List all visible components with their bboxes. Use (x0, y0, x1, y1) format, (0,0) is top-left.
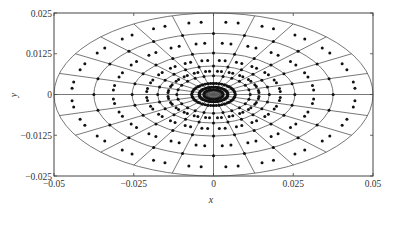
mesh-node (186, 112, 189, 115)
mesh-node (272, 27, 275, 30)
mesh-node (118, 111, 121, 114)
mesh-node (206, 104, 209, 107)
mesh-node (156, 93, 159, 96)
x-axis-label: x (208, 194, 214, 205)
mesh-node (291, 104, 294, 107)
mesh-node (247, 98, 250, 101)
mesh-node (161, 115, 164, 118)
mesh-node (249, 106, 252, 109)
mesh-node (96, 51, 99, 54)
mesh-node (174, 121, 177, 124)
mesh-node (321, 140, 324, 143)
mesh-node (218, 104, 221, 107)
mesh-node (215, 104, 218, 107)
mesh-node (206, 82, 209, 85)
mesh-node (180, 84, 183, 87)
mesh-node (272, 146, 275, 149)
mesh-node (289, 60, 292, 63)
mesh-node (186, 74, 189, 77)
mesh-node (223, 84, 226, 87)
mesh-node (226, 94, 229, 97)
mesh-node (250, 121, 253, 124)
mesh-node (200, 127, 203, 130)
mesh-node (282, 114, 285, 117)
mesh-node (275, 81, 278, 84)
mesh-node (121, 115, 124, 118)
mesh-node (167, 91, 170, 94)
mesh-node (255, 119, 258, 122)
mesh-node (345, 68, 348, 71)
mesh-node (204, 83, 207, 86)
mesh-node (154, 64, 157, 67)
mesh-node (273, 79, 276, 82)
mesh-node (186, 106, 189, 109)
mesh-node (238, 80, 241, 83)
mesh-node (224, 59, 227, 62)
mesh-node (209, 82, 212, 85)
mesh-node (303, 71, 306, 74)
mesh-node (167, 97, 170, 100)
mesh-node (174, 65, 177, 68)
mesh-node (131, 93, 134, 96)
mesh-node (92, 93, 95, 96)
mesh-node (135, 126, 138, 129)
mesh-node (152, 146, 155, 149)
mesh-node (83, 124, 86, 127)
mesh-node (294, 64, 297, 67)
mesh-node (183, 75, 186, 78)
mesh-node (270, 51, 273, 54)
radial-line (214, 95, 368, 116)
mesh-node (272, 40, 275, 43)
mesh-node (209, 104, 212, 107)
mesh-node (240, 68, 243, 71)
mesh-node (234, 95, 237, 98)
mesh-node (221, 75, 224, 78)
mesh-node (238, 112, 241, 115)
mesh-node (215, 82, 218, 85)
mesh-node (204, 70, 207, 73)
mesh-node (220, 103, 223, 106)
y-tick-label: −0.025 (25, 172, 52, 182)
mesh-node (146, 99, 149, 102)
mesh-node (230, 109, 233, 112)
mesh-node (169, 119, 172, 122)
mesh-node (353, 99, 356, 102)
mesh-node (96, 135, 99, 138)
mesh-node (221, 144, 224, 147)
mesh-node (220, 83, 223, 86)
mesh-node (206, 59, 209, 62)
mesh-node (184, 124, 187, 127)
mesh-node (203, 42, 206, 45)
mesh-node (251, 113, 254, 116)
mesh-node (224, 21, 227, 24)
mesh-node (249, 93, 252, 96)
mesh-node (218, 127, 221, 130)
mesh-node (261, 161, 264, 164)
radial-line (59, 95, 213, 116)
mesh-node (306, 111, 309, 114)
mesh-node (224, 165, 227, 168)
mesh-node (212, 32, 215, 35)
mesh-node (221, 42, 224, 45)
mesh-node (255, 67, 258, 70)
mesh-node (169, 67, 172, 70)
mesh-node (268, 93, 271, 96)
mesh-node (279, 90, 282, 93)
mesh-node (133, 104, 136, 107)
mesh-node (238, 74, 241, 77)
mesh-node (226, 65, 229, 68)
mesh-node (189, 61, 192, 64)
x-tick-label: 0 (211, 179, 216, 189)
mesh-node (71, 99, 74, 102)
mesh-node (203, 144, 206, 147)
mesh-node (332, 93, 335, 96)
mesh-node (79, 118, 82, 121)
mesh-node (228, 71, 231, 74)
mesh-node (303, 149, 306, 152)
mesh-node (270, 64, 273, 67)
mesh-node (158, 86, 161, 89)
mesh-node (212, 74, 215, 77)
mesh-node (145, 90, 148, 93)
mesh-node (204, 103, 207, 106)
mesh-node (328, 135, 331, 138)
